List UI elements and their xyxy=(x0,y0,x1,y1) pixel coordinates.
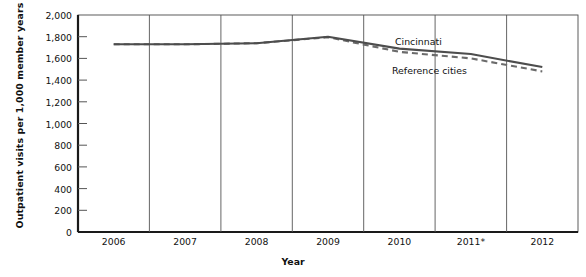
x-tick-2007: 2007 xyxy=(173,236,197,247)
x-tick-2010: 2010 xyxy=(388,236,412,247)
series-label-reference-cities: Reference cities xyxy=(392,65,467,76)
chart-figure: Outpatient visits per 1,000 member years… xyxy=(0,0,586,277)
x-tick-2011: 2011* xyxy=(457,236,485,247)
x-tick-2009: 2009 xyxy=(316,236,340,247)
x-axis-label: Year xyxy=(0,256,586,267)
series-label-cincinnati: Cincinnati xyxy=(395,36,442,47)
x-tick-2012: 2012 xyxy=(530,236,554,247)
x-tick-2006: 2006 xyxy=(102,236,126,247)
x-tick-2008: 2008 xyxy=(245,236,269,247)
x-axis-tick-labels: 2006 2007 2008 2009 2010 2011* 2012 xyxy=(0,0,586,277)
